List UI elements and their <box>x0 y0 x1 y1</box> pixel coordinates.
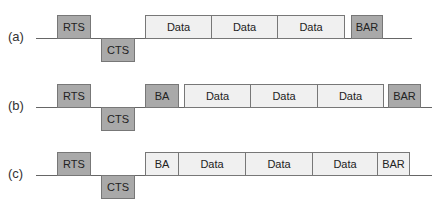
cts-frame: CTS <box>101 107 135 131</box>
data-frame: Data <box>245 152 313 176</box>
data-frame: Data <box>312 152 378 176</box>
bar-frame: BAR <box>377 152 410 176</box>
bar-frame: BAR <box>388 84 421 108</box>
row-label-b: (b) <box>8 98 24 113</box>
data-frame: Data <box>250 84 318 108</box>
ba-frame: BA <box>145 152 179 176</box>
cts-frame: CTS <box>101 175 135 199</box>
data-frame: Data <box>184 84 251 108</box>
rts-frame: RTS <box>57 84 91 108</box>
rts-frame: RTS <box>57 152 91 176</box>
data-frame: Data <box>317 84 384 108</box>
data-frame: Data <box>178 152 246 176</box>
timeline-c: (c) RTS CTS BA Data Data Data BAR <box>0 0 446 70</box>
row-label-c: (c) <box>8 166 23 181</box>
ba-frame: BA <box>145 84 179 108</box>
